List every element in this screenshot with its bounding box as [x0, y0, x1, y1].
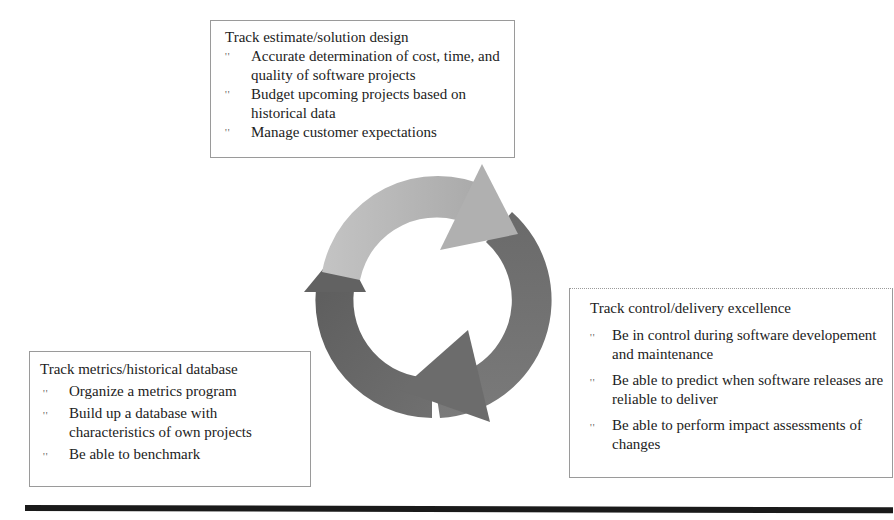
list-item-text: Organize a metrics program: [69, 383, 237, 399]
arrow-control-to-metrics: [322, 164, 518, 280]
bullet-list: '' Accurate determination of cost, time,…: [225, 47, 506, 142]
horizontal-rule: [25, 505, 893, 513]
cycle-arrows-icon: [300, 160, 570, 430]
list-item-text: Manage customer expectations: [251, 124, 437, 140]
box-title: Track metrics/historical database: [40, 360, 302, 379]
list-item: '' Budget upcoming projects based on his…: [225, 85, 506, 123]
list-item-text: Be able to benchmark: [69, 446, 200, 462]
list-item-text: Be able to perform impact assessments of…: [612, 417, 862, 452]
list-item: '' Be in control during software develop…: [590, 326, 884, 364]
control-delivery-excellence-box: Track control/delivery excellence '' Be …: [569, 288, 893, 478]
box-title: Track estimate/solution design: [225, 28, 506, 47]
estimate-solution-design-box: Track estimate/solution design '' Accura…: [210, 20, 515, 158]
bullet-icon: '': [590, 418, 596, 437]
bullet-list: '' Organize a metrics program '' Build u…: [40, 382, 302, 464]
bullet-list: '' Be in control during software develop…: [590, 326, 884, 454]
list-item: '' Be able to perform impact assessments…: [590, 416, 884, 454]
bullet-icon: '': [590, 373, 596, 392]
list-item: '' Organize a metrics program: [40, 382, 302, 401]
bullet-icon: '': [225, 47, 231, 66]
box-title: Track control/delivery excellence: [590, 299, 884, 318]
list-item: '' Be able to predict when software rele…: [590, 371, 884, 409]
list-item-text: Build up a database with characteristics…: [69, 405, 252, 440]
bullet-icon: '': [43, 384, 49, 403]
bullet-icon: '': [590, 328, 596, 347]
bullet-icon: '': [225, 123, 231, 142]
list-item-text: Budget upcoming projects based on histor…: [251, 86, 466, 121]
list-item-text: Be able to predict when software release…: [612, 372, 883, 407]
bullet-icon: '': [225, 85, 231, 104]
bullet-icon: '': [43, 406, 49, 425]
list-item-text: Accurate determination of cost, time, an…: [251, 48, 500, 83]
list-item: '' Accurate determination of cost, time,…: [225, 47, 506, 85]
list-item-text: Be in control during software developeme…: [612, 327, 877, 362]
list-item: '' Build up a database with characterist…: [40, 404, 302, 442]
list-item: '' Manage customer expectations: [225, 123, 506, 142]
arrow-estimate-to-control: [400, 212, 552, 422]
bullet-icon: '': [43, 447, 49, 466]
list-item: '' Be able to benchmark: [40, 445, 302, 464]
metrics-historical-database-box: Track metrics/historical database '' Org…: [29, 351, 311, 487]
